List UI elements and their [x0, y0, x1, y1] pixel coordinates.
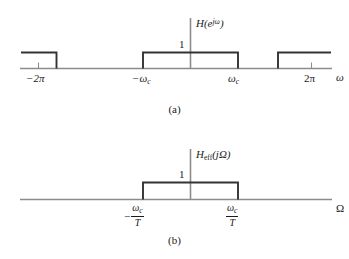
frac-num-left-sub: c — [139, 206, 142, 215]
frac-den-left: T — [131, 218, 143, 229]
amplitude-label-a: 1 — [179, 39, 185, 50]
y-axis-label-b: Heff(jΩ) — [196, 149, 231, 161]
figure-container: H(ejω) 1 −2π −ωc ωc 2π ω (a) Heff(jΩ) 1 — [0, 0, 349, 259]
tick-label-pos-2pi: 2π — [304, 73, 315, 84]
y-axis-label-a-paren: ) — [220, 17, 224, 29]
tick-label-pos-wc: ωc — [228, 73, 239, 85]
tick-label-neg-wc-over-t-sign: − — [124, 210, 131, 222]
tick-label-neg-wc-sub: c — [147, 77, 150, 86]
y-axis-label-a: H(ejω) — [196, 18, 224, 29]
tick-label-pos-wc-sub: c — [236, 77, 239, 86]
tick-label-pos-wc-text: ω — [228, 72, 236, 84]
y-axis-label-a-main: H(e — [196, 17, 213, 29]
tick-label-neg-2pi-text: −2π — [26, 72, 44, 84]
frac-num-right: ωc — [226, 203, 238, 215]
tick-label-neg-wc: −ωc — [132, 73, 151, 85]
caption-b: (b) — [0, 234, 349, 246]
amplitude-label-b: 1 — [179, 169, 185, 180]
tick-label-neg-wc-over-t: −ωcT — [124, 203, 144, 228]
frac-num-right-text: ω — [227, 202, 234, 213]
panel-b: Heff(jΩ) 1 −ωcT ωcT Ω (b) — [0, 130, 349, 259]
tick-label-pos-wc-over-t: ωcT — [226, 203, 238, 228]
frac-num-left: ωc — [131, 203, 143, 215]
tick-label-neg-2pi: −2π — [26, 73, 44, 84]
y-axis-label-b-sub: eff — [204, 153, 212, 162]
y-axis-label-b-main: H — [196, 148, 204, 160]
y-axis-label-a-exponent: jω — [213, 17, 220, 26]
passband-right-a — [278, 53, 331, 69]
frac-num-right-sub: c — [234, 206, 237, 215]
panel-a: H(ejω) 1 −2π −ωc ωc 2π ω (a) — [0, 0, 349, 130]
y-axis-label-b-arg: (jΩ) — [212, 148, 230, 160]
caption-a: (a) — [0, 103, 349, 115]
x-axis-label-a: ω — [336, 72, 344, 83]
x-axis-label-b: Ω — [336, 203, 344, 214]
tick-label-neg-wc-text: −ω — [132, 72, 147, 84]
tick-label-neg-wc-over-t-frac: ωcT — [131, 203, 143, 228]
tick-label-pos-wc-over-t-frac: ωcT — [226, 203, 238, 228]
frac-den-right: T — [226, 218, 238, 229]
